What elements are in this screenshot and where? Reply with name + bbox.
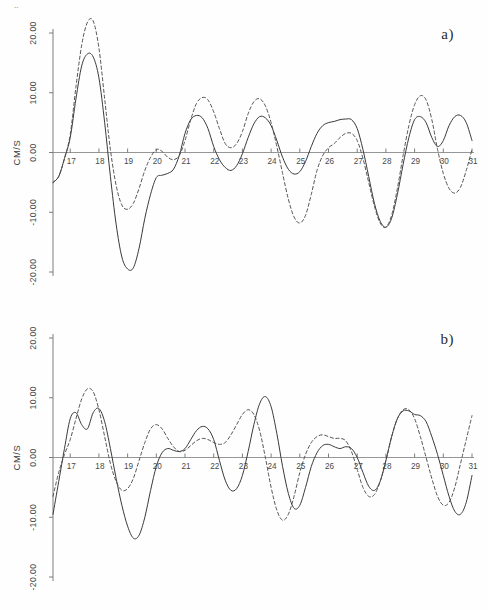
x-tick-label: 18 [95, 462, 105, 471]
series-dashed [53, 388, 472, 520]
figure-root: .. a) -20.00-10.000.0010.0020.00CM/S1718… [0, 0, 488, 610]
x-tick-label: 22 [210, 462, 220, 471]
x-tick-label: 19 [124, 462, 134, 471]
x-tick-label: 29 [411, 462, 421, 471]
series-solid [53, 397, 472, 539]
y-axis-title: CM/S [11, 140, 22, 166]
series-dashed [53, 18, 472, 227]
x-tick-label: 24 [268, 462, 278, 471]
series-solid [53, 53, 472, 270]
y-tick-label: 0.00 [28, 448, 38, 466]
y-tick-label: -20.00 [28, 259, 38, 286]
y-tick-label: 20.00 [28, 326, 38, 350]
panel-b-plot: -20.00-10.000.0010.0020.00CM/S1718192021… [0, 305, 488, 610]
x-tick-label: 17 [67, 462, 77, 471]
x-tick-label: 21 [181, 462, 191, 471]
y-tick-label: 10.00 [28, 81, 38, 105]
y-axis-title: CM/S [11, 445, 22, 471]
y-tick-label: 10.00 [28, 386, 38, 410]
x-tick-label: 26 [325, 462, 335, 471]
panel-a-plot: -20.00-10.000.0010.0020.00CM/S1718192021… [0, 0, 488, 305]
y-tick-label: 20.00 [28, 21, 38, 45]
panel-a: a) -20.00-10.000.0010.0020.00CM/S1718192… [0, 0, 488, 305]
x-tick-label: 24 [268, 157, 278, 166]
y-tick-label: -10.00 [28, 504, 38, 531]
x-tick-label: 29 [411, 157, 421, 166]
panel-b: b) -20.00-10.000.0010.0020.00CM/S1718192… [0, 305, 488, 610]
y-tick-label: -10.00 [28, 199, 38, 226]
x-tick-label: 31 [468, 462, 478, 471]
x-tick-label: 26 [325, 157, 335, 166]
x-tick-label: 28 [382, 157, 392, 166]
y-tick-label: -20.00 [28, 564, 38, 591]
x-tick-label: 30 [440, 157, 450, 166]
x-tick-label: 27 [354, 157, 364, 166]
x-tick-label: 19 [124, 157, 134, 166]
y-tick-label: 0.00 [28, 143, 38, 161]
x-tick-label: 20 [153, 157, 163, 166]
x-tick-label: 18 [95, 157, 105, 166]
x-tick-label: 17 [67, 157, 77, 166]
x-tick-label: 21 [181, 157, 191, 166]
